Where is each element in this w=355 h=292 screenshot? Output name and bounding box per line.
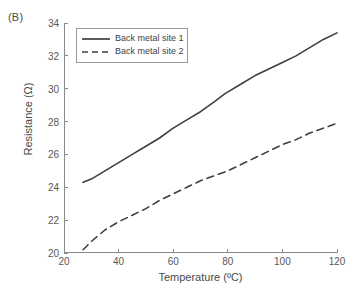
x-tick-label: 40: [113, 256, 124, 267]
y-tick-mark: [64, 154, 68, 155]
legend-label: Back metal site 2: [115, 46, 184, 57]
series-line-back-metal-site-2: [83, 123, 337, 250]
legend-item-back-metal-site-2: Back metal site 2: [81, 45, 183, 58]
figure-panel-b: (B) 2022242628303234 20406080100120 Temp…: [0, 0, 355, 292]
y-tick-label: 30: [48, 83, 59, 94]
y-axis-title: Resistance (Ω): [22, 29, 34, 209]
x-tick-label: 80: [222, 256, 233, 267]
x-tick-label: 100: [274, 256, 291, 267]
y-tick-label: 34: [48, 18, 59, 29]
x-axis-title: Temperature (ºC): [64, 271, 337, 283]
chart-legend: Back metal site 1 Back metal site 2: [76, 28, 188, 63]
x-tick-mark: [64, 249, 65, 253]
x-tick-mark: [282, 249, 283, 253]
y-axis-tick-labels: 2022242628303234: [36, 23, 59, 253]
y-tick-label: 32: [48, 50, 59, 61]
x-tick-label: 20: [58, 256, 69, 267]
y-tick-mark: [64, 187, 68, 188]
y-tick-label: 22: [48, 215, 59, 226]
y-tick-mark: [64, 121, 68, 122]
legend-label: Back metal site 1: [115, 33, 184, 44]
y-tick-mark: [64, 23, 68, 24]
legend-item-back-metal-site-1: Back metal site 1: [81, 32, 183, 45]
y-tick-mark: [64, 220, 68, 221]
y-tick-label: 20: [48, 248, 59, 259]
y-tick-label: 26: [48, 149, 59, 160]
x-tick-label: 120: [329, 256, 346, 267]
x-tick-mark: [118, 249, 119, 253]
y-tick-mark: [64, 253, 68, 254]
y-tick-label: 24: [48, 182, 59, 193]
legend-swatch-solid-icon: [81, 34, 111, 44]
y-tick-mark: [64, 88, 68, 89]
x-tick-label: 60: [168, 256, 179, 267]
y-tick-label: 28: [48, 116, 59, 127]
x-axis-tick-labels: 20406080100120: [64, 256, 337, 270]
x-tick-mark: [337, 249, 338, 253]
y-tick-mark: [64, 55, 68, 56]
panel-label: (B): [8, 11, 23, 23]
legend-swatch-dashed-icon: [81, 47, 111, 57]
x-tick-mark: [227, 249, 228, 253]
x-tick-mark: [173, 249, 174, 253]
